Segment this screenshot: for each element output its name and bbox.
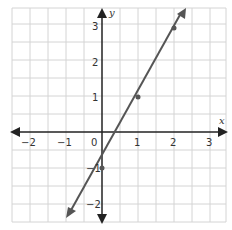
y-axis <box>97 8 107 224</box>
line-down-arrow-icon <box>66 207 76 218</box>
y-tick-1: 1 <box>92 92 98 103</box>
y-tick-neg2: −2 <box>86 199 101 210</box>
x-axis-label: x <box>219 115 225 126</box>
origin-label: 0 <box>91 137 97 148</box>
coordinate-plane: x y 0 −2 −1 1 2 3 3 2 1 −1 −2 <box>0 0 232 230</box>
x-axis <box>10 127 228 137</box>
y-axis-label: y <box>108 7 115 18</box>
point-2-3 <box>172 26 177 31</box>
y-tick-2: 2 <box>92 57 98 68</box>
y-tick-neg1: −1 <box>86 163 101 174</box>
point-1-1 <box>136 95 141 100</box>
x-tick-2: 2 <box>170 137 176 148</box>
grid <box>12 8 226 222</box>
y-axis-up-arrow-icon <box>97 8 107 18</box>
x-tick-3: 3 <box>206 137 212 148</box>
x-tick-1: 1 <box>134 137 140 148</box>
x-tick-neg2: −2 <box>21 137 36 148</box>
x-tick-neg1: −1 <box>57 137 72 148</box>
y-tick-3: 3 <box>92 21 98 32</box>
